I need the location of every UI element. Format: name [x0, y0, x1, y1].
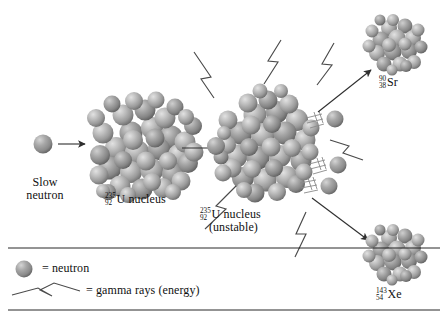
- strontium-isotope-notation: 909038: [379, 76, 386, 89]
- uranium-unstable-atomic-number: 92: [200, 215, 207, 222]
- gamma-ray-bolt-icon-1: [194, 52, 214, 98]
- xenon-atomic-number: 54: [376, 295, 383, 302]
- slow-neutron-label-line2: neutron: [10, 189, 80, 202]
- gamma-ray-bolt-icon-2: [264, 40, 281, 84]
- slow-neutron: [34, 135, 53, 154]
- uranium-235-target-nucleus: [87, 92, 204, 204]
- fission-fragment-xenon-143: [363, 224, 428, 286]
- uranium-target-isotope-notation: 23523592: [105, 193, 116, 206]
- uranium-target-label: 23523592U nucleus: [105, 193, 166, 206]
- arrow-icon-to-xenon: [312, 198, 368, 240]
- gamma-ray-bolt-icon-6: [295, 212, 306, 257]
- fission-diagram-figure: Slow neutron 23523592U nucleus 23523592U…: [0, 0, 448, 317]
- fission-fragment-strontium-90: [363, 14, 428, 76]
- strontium-label: 909038Sr: [379, 76, 398, 89]
- strontium-atomic-number: 38: [379, 83, 386, 90]
- gamma-ray-bolt-icon-3: [317, 43, 334, 85]
- uranium-236-compound-nucleus: [207, 84, 320, 203]
- uranium-unstable-notation-row: 23523592U nucleus: [200, 208, 261, 221]
- uranium-unstable-label: 23523592U nucleus (unstable): [200, 208, 261, 235]
- xenon-label: 14314354Xe: [376, 288, 402, 301]
- slow-neutron-label: Slow neutron: [10, 176, 80, 203]
- strontium-symbol: Sr: [387, 75, 398, 89]
- gamma-ray-bolt-icon-4: [330, 140, 363, 160]
- uranium-target-atomic-number: 92: [105, 200, 112, 207]
- legend-neutron-sphere-icon: [16, 261, 33, 278]
- uranium-unstable-isotope-notation: 23523592: [200, 208, 211, 221]
- slow-neutron-label-line1: Slow: [10, 176, 80, 189]
- uranium-target-suffix: nucleus: [125, 192, 165, 206]
- xenon-isotope-notation: 14314354: [376, 288, 387, 301]
- legend-gamma-label: = gamma rays (energy): [86, 284, 200, 297]
- uranium-unstable-note: (unstable): [200, 221, 261, 234]
- uranium-unstable-suffix: nucleus: [220, 207, 260, 221]
- legend-neutron-label: = neutron: [42, 262, 89, 275]
- xenon-symbol: Xe: [388, 287, 402, 301]
- legend-gamma-ray-bolt-icon: [12, 283, 80, 296]
- arrow-icon-to-strontium: [318, 70, 371, 112]
